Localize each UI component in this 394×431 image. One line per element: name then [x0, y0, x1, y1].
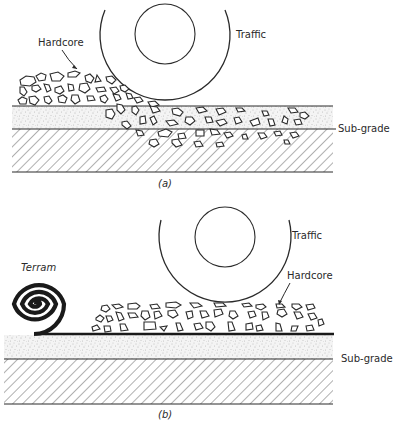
sand-layer-b: [4, 335, 333, 359]
arrowhead-icon-a: [72, 65, 77, 69]
caption-b: (b): [158, 409, 172, 420]
terram-label: Terram: [21, 262, 56, 273]
hardcore-stones-b: [92, 302, 324, 332]
caption-a: (a): [158, 178, 172, 189]
traffic-label-b: Traffic: [291, 230, 322, 241]
geotextile-diagram: Traffic Hardcore Sub-grade (a): [0, 0, 394, 431]
terram-roll-icon: [14, 285, 64, 334]
traffic-label-a: Traffic: [235, 29, 266, 40]
panel-a: Traffic Hardcore Sub-grade (a): [12, 4, 390, 189]
subgrade-hatch-a: [12, 129, 333, 172]
panel-b: Terram Traffic Hardcore Sub-grade (b): [4, 207, 393, 420]
hardcore-label-b: Hardcore: [287, 270, 333, 281]
subgrade-label-b: Sub-grade: [341, 353, 393, 364]
subgrade-hatch-b: [4, 359, 333, 404]
hardcore-label-a: Hardcore: [38, 37, 84, 48]
subgrade-label-a: Sub-grade: [338, 123, 390, 134]
wheel-icon-b: [159, 207, 291, 302]
